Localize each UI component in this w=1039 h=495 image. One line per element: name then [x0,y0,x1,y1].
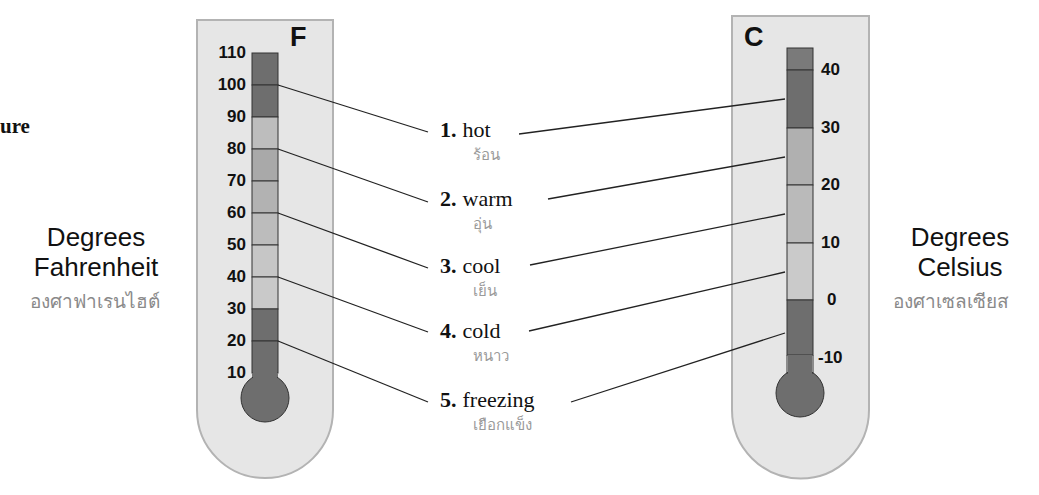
term-thai: อุ่น [473,212,513,236]
celsius-unit-label: C [744,22,764,53]
fahrenheit-tick: 50 [227,236,246,254]
term-number: 5. [440,387,457,412]
term-thai: เยือกแข็ง [473,413,535,437]
fahrenheit-tick: 100 [218,76,246,94]
term-freezing: 5.freezing เยือกแข็ง [440,387,535,437]
term-number: 4. [440,318,457,343]
term-cold: 4.cold หนาว [440,318,509,368]
fahrenheit-tick: 10 [227,364,246,382]
term-word: warm [463,186,513,211]
fahrenheit-tick: 30 [227,300,246,318]
term-word: freezing [463,387,535,412]
term-thai: ร้อน [473,143,500,167]
celsius-tick: -10 [818,349,843,367]
term-word: hot [463,117,491,142]
term-thai: หนาว [473,344,509,368]
fahrenheit-tick: 90 [227,108,246,126]
fahrenheit-tick: 70 [227,172,246,190]
fahrenheit-tick: 20 [227,332,246,350]
celsius-tick: 30 [821,119,840,137]
term-number: 1. [440,117,457,142]
fahrenheit-tick: 110 [219,44,246,62]
celsius-tube [787,48,813,355]
celsius-tick: 40 [821,61,840,79]
celsius-tick: 10 [821,234,840,252]
term-hot: 1.hot ร้อน [440,117,500,167]
fahrenheit-tick: 40 [227,268,246,286]
term-word: cool [463,253,501,278]
fahrenheit-unit-label: F [290,22,307,53]
celsius-tick: 0 [827,291,836,309]
celsius-tick: 20 [821,176,840,194]
fahrenheit-tick: 80 [227,140,246,158]
fahrenheit-tube [252,53,278,387]
term-word: cold [463,318,501,343]
term-thai: เย็น [473,279,500,303]
term-cool: 3.cool เย็น [440,253,500,303]
term-warm: 2.warm อุ่น [440,186,513,236]
term-number: 2. [440,186,457,211]
term-number: 3. [440,253,457,278]
fahrenheit-tick: 60 [227,204,246,222]
